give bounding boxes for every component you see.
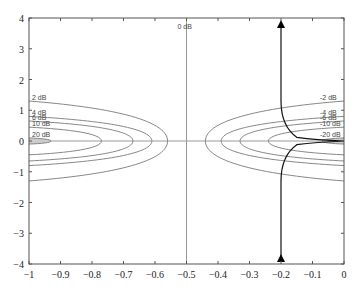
x-tick-label: −0.8 xyxy=(83,269,101,280)
x-tick-label: −0.6 xyxy=(146,269,164,280)
arrow-up-icon xyxy=(277,254,285,262)
x-tick-label: −0.2 xyxy=(272,269,290,280)
x-tick-label: −0.3 xyxy=(240,269,258,280)
y-tick-label: −1 xyxy=(13,167,24,178)
arrow-up-icon xyxy=(277,20,285,28)
contour-label: 2 dB xyxy=(32,94,47,101)
y-tick-label: −4 xyxy=(13,259,24,270)
x-tick-label: −0.4 xyxy=(209,269,227,280)
contour-label: -2 dB xyxy=(320,94,337,101)
contour-label: -10 dB xyxy=(320,120,341,127)
x-tick-label: −1 xyxy=(24,269,35,280)
contour-lines xyxy=(29,18,344,264)
y-tick-label: 3 xyxy=(19,44,24,55)
x-tick-label: −0.5 xyxy=(177,269,195,280)
x-tick-label: −0.7 xyxy=(114,269,132,280)
x-tick-label: −0.1 xyxy=(303,269,321,280)
contour-label: -20 dB xyxy=(320,131,341,138)
axis-ticks: −1−0.9−0.8−0.7−0.6−0.5−0.4−0.3−0.2−0.10−… xyxy=(13,13,346,280)
contour-label: 20 dB xyxy=(32,131,51,138)
contour-line xyxy=(29,138,51,144)
contour-label: 0 dB xyxy=(178,23,193,30)
contour-chart: −1−0.9−0.8−0.7−0.6−0.5−0.4−0.3−0.2−0.10−… xyxy=(0,0,358,292)
y-tick-label: 2 xyxy=(19,75,24,86)
y-tick-label: −2 xyxy=(13,198,24,209)
contour-label: 10 dB xyxy=(32,120,51,127)
y-tick-label: 4 xyxy=(19,13,24,24)
y-tick-label: 0 xyxy=(19,136,24,147)
y-tick-label: −3 xyxy=(13,228,24,239)
x-tick-label: −0.9 xyxy=(51,269,69,280)
x-tick-label: 0 xyxy=(342,269,347,280)
y-tick-label: 1 xyxy=(19,105,24,116)
